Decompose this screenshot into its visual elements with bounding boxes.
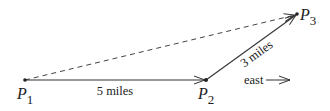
point-p3-dot	[295, 12, 299, 16]
segment-p1-p2-label: 5 miles	[97, 84, 134, 98]
vector-diagram: P1 P2 P3 5 miles 3 miles east	[0, 0, 330, 111]
east-label: east	[244, 73, 264, 87]
point-p3-label: P3	[299, 6, 316, 28]
point-p2-dot	[204, 78, 208, 82]
point-p1-label: P1	[16, 85, 33, 107]
segment-p2-p3	[206, 15, 296, 80]
segment-p2-p3-label: 3 miles	[238, 37, 276, 70]
point-p1-dot	[23, 78, 27, 82]
point-p2-label: P2	[197, 85, 214, 107]
